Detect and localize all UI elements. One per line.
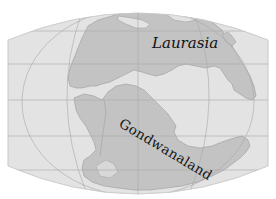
supercontinent-map: Laurasia Gondwanaland [0,0,276,199]
label-laurasia: Laurasia [151,34,218,52]
